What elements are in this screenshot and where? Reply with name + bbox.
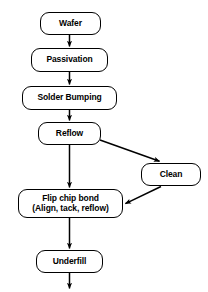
node-flip-chip-bond[interactable]: Flip chip bond (Align, tack, reflow) — [18, 189, 123, 218]
edge-clean-to-flip-chip-bond — [125, 187, 161, 204]
node-solder-bumping-label: Solder Bumping — [37, 93, 101, 103]
node-clean[interactable]: Clean — [141, 163, 201, 186]
node-flip-chip-bond-label: Flip chip bond (Align, tack, reflow) — [32, 194, 108, 214]
node-wafer[interactable]: Wafer — [40, 12, 101, 35]
edge-reflow-to-clean — [100, 140, 160, 161]
flowchart-connectors-layer — [0, 0, 208, 292]
node-solder-bumping[interactable]: Solder Bumping — [22, 86, 117, 110]
node-wafer-label: Wafer — [59, 19, 82, 29]
node-reflow[interactable]: Reflow — [38, 122, 101, 145]
node-reflow-label: Reflow — [56, 129, 83, 139]
node-passivation-label: Passivation — [46, 55, 92, 65]
flowchart-diagram: Wafer Passivation Solder Bumping Reflow … — [0, 0, 208, 292]
node-underfill[interactable]: Underfill — [36, 250, 103, 273]
node-clean-label: Clean — [160, 170, 183, 180]
node-passivation[interactable]: Passivation — [31, 48, 108, 72]
node-underfill-label: Underfill — [53, 257, 87, 267]
